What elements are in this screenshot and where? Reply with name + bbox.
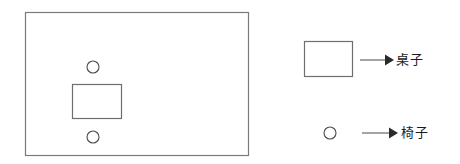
legend-arrow-chair (362, 128, 398, 139)
diagram-canvas (0, 0, 460, 164)
chair-top-symbol (87, 61, 99, 73)
room-outline (26, 13, 249, 156)
table-symbol (73, 85, 122, 119)
chair-bottom-symbol (87, 131, 99, 143)
legend-swatch-chair (324, 127, 336, 139)
floor-plan-diagram: 桌子 椅子 (0, 0, 460, 164)
legend-arrow-table (360, 55, 394, 66)
legend-swatch-table (305, 42, 353, 77)
legend-label-chair: 椅子 (401, 126, 429, 139)
legend-label-table: 桌子 (396, 53, 424, 66)
